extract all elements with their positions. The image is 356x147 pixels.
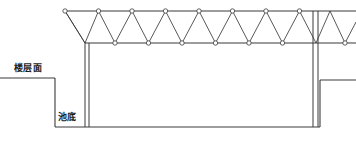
truss-node: [230, 9, 234, 13]
web-zigzag-polyline: [65, 11, 356, 43]
truss-node: [96, 9, 100, 13]
truss-assembly: [63, 9, 356, 45]
truss-node: [163, 9, 167, 13]
truss-node: [113, 41, 117, 45]
right-column: [313, 11, 318, 127]
truss-node: [146, 41, 150, 45]
label-pool-bottom: 池底: [58, 112, 77, 123]
web-end-diagonal-left: [65, 11, 85, 43]
truss-web-members: [65, 11, 356, 43]
truss-node: [343, 41, 347, 45]
truss-node: [264, 9, 268, 13]
truss-node: [63, 9, 67, 13]
ground-profile: [0, 78, 356, 127]
label-floor-level: 楼层面: [14, 63, 42, 74]
section-drawing-svg: [0, 0, 356, 147]
truss-node: [213, 41, 217, 45]
truss-node: [197, 9, 201, 13]
left-column: [85, 43, 89, 127]
truss-node: [280, 41, 284, 45]
truss-node: [247, 41, 251, 45]
section-drawing-canvas: 楼层面 池底: [0, 0, 356, 147]
truss-node: [130, 9, 134, 13]
truss-node: [180, 41, 184, 45]
truss-node: [297, 9, 301, 13]
